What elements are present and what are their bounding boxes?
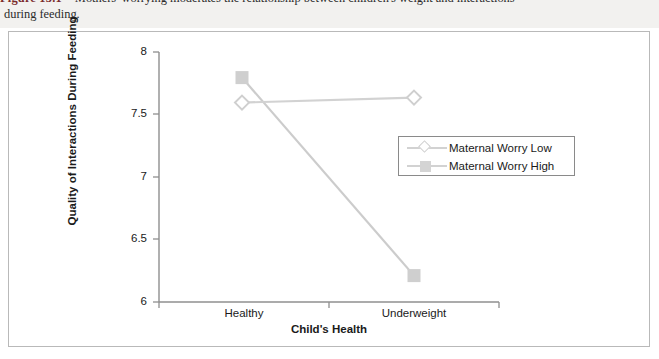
x-tick-label-healthy: Healthy — [184, 307, 304, 319]
legend-item-maternal-worry-high: Maternal Worry High — [399, 157, 574, 175]
chart-panel: 8 7.5 7 6.5 6 Healthy Underweight Qualit… — [8, 31, 650, 347]
y-tick-label-7: 7 — [117, 170, 147, 182]
legend-diamond-marker-icon — [405, 140, 449, 156]
legend-item-maternal-worry-low: Maternal Worry Low — [399, 139, 574, 157]
data-point-low-underweight — [407, 91, 421, 105]
figure-caption-line-1: Figure 13.1Mothers' worrying moderates t… — [0, 0, 659, 9]
legend-square-marker-icon — [405, 158, 449, 174]
figure-caption-band: Figure 13.1Mothers' worrying moderates t… — [0, 0, 659, 28]
y-tick-label-8: 8 — [117, 45, 147, 57]
data-point-high-healthy — [236, 71, 249, 84]
data-point-high-underweight — [408, 269, 421, 282]
figure-number-label: Figure 13.1 — [0, 0, 62, 5]
figure-caption-text-line-1: Mothers' worrying moderates the relation… — [75, 0, 515, 5]
y-axis-title: Quality of Interactions During Feeding — [66, 6, 78, 236]
y-tick-label-7-5: 7.5 — [117, 107, 147, 119]
plot-area — [9, 32, 649, 346]
series-line-maternal-worry-low — [242, 98, 414, 103]
chart-legend: Maternal Worry Low Maternal Worry High — [398, 136, 575, 176]
series-line-maternal-worry-high — [242, 78, 414, 276]
legend-label-maternal-worry-high: Maternal Worry High — [449, 160, 554, 172]
y-tick-label-6: 6 — [117, 295, 147, 307]
x-axis-title: Child's Health — [159, 323, 499, 335]
x-tick-label-underweight: Underweight — [354, 307, 474, 319]
y-tick-label-6-5: 6.5 — [117, 232, 147, 244]
legend-label-maternal-worry-low: Maternal Worry Low — [449, 142, 552, 154]
data-point-low-healthy — [235, 96, 249, 110]
